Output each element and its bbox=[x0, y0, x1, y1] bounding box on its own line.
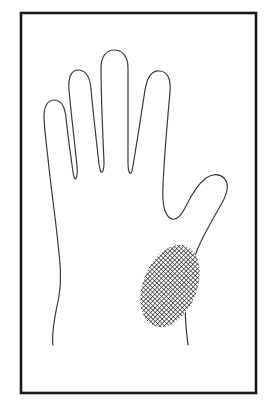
figure-root: Hand outline diagram with shaded palm re… bbox=[0, 0, 277, 416]
border-frame bbox=[21, 13, 256, 393]
hand-diagram-svg: Hand outline diagram with shaded palm re… bbox=[0, 0, 277, 416]
